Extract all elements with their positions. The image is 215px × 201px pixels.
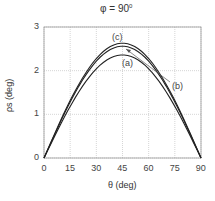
x-tick-label: 60 xyxy=(143,163,153,173)
x-tick-label: 0 xyxy=(41,163,46,173)
chart-plot xyxy=(0,0,215,201)
x-tick-label: 45 xyxy=(117,163,127,173)
y-tick-label: 0 xyxy=(34,152,39,162)
chart-title: φ = 900 xyxy=(100,3,132,14)
x-tick-label: 75 xyxy=(170,163,180,173)
x-tick-label: 30 xyxy=(91,163,101,173)
y-tick-label: 2 xyxy=(34,65,39,75)
x-tick-label: 90 xyxy=(196,163,206,173)
annotation-label-c: (c) xyxy=(112,32,123,42)
x-tick-label: 15 xyxy=(65,163,75,173)
annotation-label-a: (a) xyxy=(122,58,133,68)
y-tick-label: 3 xyxy=(34,21,39,31)
y-tick-label: 1 xyxy=(34,108,39,118)
annotation-label-b: (b) xyxy=(172,81,183,91)
y-axis-label: ρs (deg) xyxy=(4,79,14,112)
x-axis-label: θ (deg) xyxy=(108,180,137,190)
